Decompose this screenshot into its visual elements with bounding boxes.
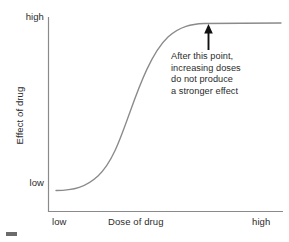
x-axis-tick-low: low [52,216,67,227]
annotation-line-3: do not produce [171,74,287,86]
y-axis-title: Effect of drug [14,71,25,161]
x-axis-title: Dose of drug [108,216,164,227]
plot-canvas [0,0,289,242]
annotation-line-1: After this point, [171,51,287,63]
annotation-line-4: a stronger effect [171,86,287,98]
corner-mark [6,232,17,236]
y-axis-tick-high: high [13,11,44,22]
plateau-arrow-icon [204,24,213,50]
x-axis-tick-high: high [252,216,270,227]
dose-response-figure: high low Effect of drug low high Dose of… [0,0,289,242]
annotation-line-2: increasing doses [171,63,287,75]
y-axis-tick-low: low [13,177,44,188]
plateau-annotation-text: After this point, increasing doses do no… [171,51,287,97]
dose-response-curve [56,23,281,191]
